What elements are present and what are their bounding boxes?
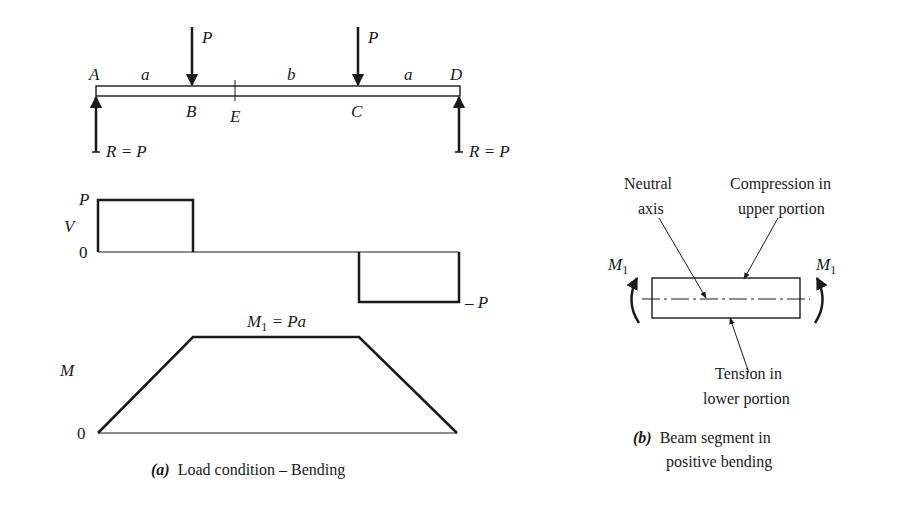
segment-rect: [652, 278, 800, 318]
compression-leader-icon: [744, 218, 778, 279]
shear-diagram: P V 0 – P: [64, 190, 488, 312]
figure-canvas: P P A a b a D B E C R = P R = P P V 0 – …: [0, 0, 900, 510]
tension-label-2: lower portion: [703, 390, 790, 408]
moment-label-right: M1: [815, 255, 836, 277]
label-a: A: [88, 65, 100, 84]
load-label-right: P: [367, 28, 378, 47]
caption-a: (a)Load condition – Bending: [151, 461, 345, 479]
beam-segment-diagram: Neutral axis Compression in upper portio…: [607, 175, 836, 408]
label-c: C: [351, 102, 363, 121]
reaction-label-left: R = P: [105, 142, 147, 161]
moment-curve: [98, 337, 457, 433]
label-e: E: [229, 107, 241, 126]
reaction-label-right: R = P: [468, 142, 510, 161]
compression-label-2: upper portion: [738, 200, 825, 218]
moment-peak-label: M1 = Pa: [246, 312, 306, 334]
moment-arrow-left-icon: [631, 278, 639, 323]
moment-zero-label: 0: [77, 424, 86, 443]
caption-b-line1: (b)Beam segment in: [633, 429, 771, 447]
moment-axis-label: M: [59, 361, 75, 380]
label-d: D: [449, 65, 463, 84]
span-label-right: a: [404, 65, 413, 84]
shear-negative-block: [359, 252, 459, 302]
shear-axis-label: V: [64, 217, 77, 236]
moment-arrow-right-icon: [815, 278, 823, 323]
neutral-axis-label-2: axis: [638, 200, 664, 217]
load-label-left: P: [201, 28, 212, 47]
neutral-axis-label-1: Neutral: [624, 175, 673, 192]
compression-label-1: Compression in: [730, 175, 831, 193]
beam-diagram: P P A a b a D B E C R = P R = P: [88, 27, 510, 161]
beam: [96, 86, 460, 96]
label-b: B: [186, 102, 197, 121]
caption-b-line2: positive bending: [666, 453, 772, 471]
shear-zero-label: 0: [79, 243, 88, 262]
span-label-left: a: [141, 65, 150, 84]
shear-top-label: P: [78, 190, 89, 209]
shear-bottom-label: – P: [464, 293, 488, 312]
moment-diagram: M1 = Pa M 0: [59, 312, 457, 443]
span-label-middle: b: [287, 65, 296, 84]
shear-positive-block: [98, 200, 193, 252]
tension-label-1: Tension in: [715, 365, 782, 382]
moment-label-left: M1: [607, 255, 628, 277]
